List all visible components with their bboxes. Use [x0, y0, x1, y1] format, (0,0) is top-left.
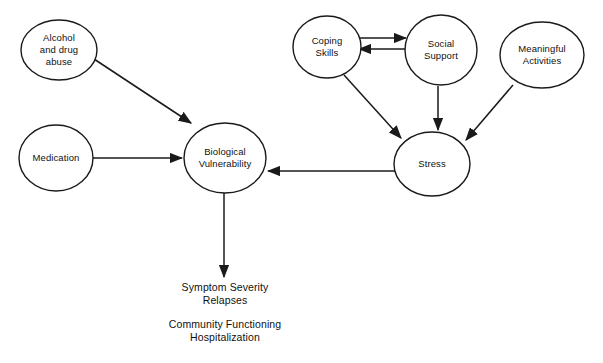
edge-meaningful-activities-to-stress	[466, 85, 513, 140]
outcome-primary-line: Symptom Severity	[182, 281, 269, 293]
node-medication[interactable]: Medication	[19, 125, 93, 191]
nodes-layer: Alcoholand drugabuseMedicationBiological…	[19, 15, 584, 196]
node-social-support[interactable]: SocialSupport	[405, 15, 477, 85]
edge-line	[344, 75, 401, 138]
node-coping-skills[interactable]: CopingSkills	[293, 16, 361, 78]
outcome-secondary-line: Community Functioning	[169, 318, 281, 330]
outcome-text-block: Symptom SeverityRelapsesCommunity Functi…	[169, 281, 281, 343]
node-label-biological-vulnerability: Biological	[204, 146, 246, 157]
node-label-alcohol-and-drug-abuse: and drug	[40, 44, 78, 55]
outcome-secondary-line: Hospitalization	[190, 331, 260, 343]
node-alcohol-and-drug-abuse[interactable]: Alcoholand drugabuse	[21, 20, 97, 80]
stress-vulnerability-diagram: Alcoholand drugabuseMedicationBiological…	[0, 0, 603, 363]
edge-line	[94, 59, 191, 123]
edge-line	[466, 85, 513, 140]
node-label-coping-skills: Skills	[316, 47, 339, 58]
edge-coping-skills-to-stress	[344, 75, 401, 138]
node-label-meaningful-activities: Meaningful	[518, 43, 565, 54]
node-label-biological-vulnerability: Vulnerability	[199, 158, 252, 169]
node-label-social-support: Support	[424, 50, 458, 61]
outcome-primary-line: Relapses	[203, 294, 248, 306]
node-label-meaningful-activities: Activities	[523, 55, 562, 66]
edge-alcohol-to-biological-vulnerability	[94, 59, 191, 123]
node-label-social-support: Social	[428, 38, 454, 49]
node-label-alcohol-and-drug-abuse: abuse	[46, 56, 72, 67]
node-biological-vulnerability[interactable]: BiologicalVulnerability	[184, 123, 266, 193]
node-meaningful-activities[interactable]: MeaningfulActivities	[500, 22, 584, 88]
node-label-coping-skills: Coping	[312, 35, 343, 46]
node-label-alcohol-and-drug-abuse: Alcohol	[43, 32, 75, 43]
node-label-medication: Medication	[33, 152, 80, 163]
node-stress[interactable]: Stress	[394, 132, 470, 196]
node-label-stress: Stress	[418, 158, 446, 169]
diagram-canvas: Alcoholand drugabuseMedicationBiological…	[0, 0, 603, 363]
